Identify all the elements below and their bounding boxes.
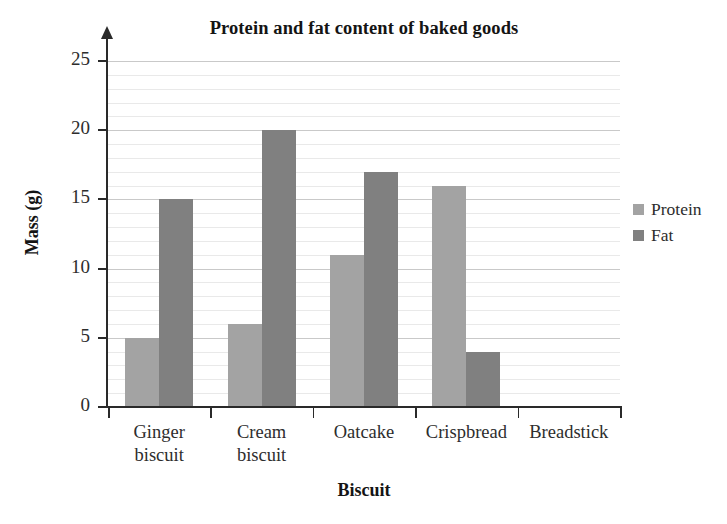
y-axis-tick-label: 0: [44, 394, 90, 416]
y-axis-tick: [98, 406, 108, 408]
bar-fat-1: [262, 130, 296, 407]
gridline-minor: [108, 75, 620, 76]
y-axis-tick-label: 25: [44, 48, 90, 70]
x-axis-category-label-line: biscuit: [192, 444, 332, 467]
y-axis-tick: [98, 129, 108, 131]
plot-area: [108, 61, 620, 407]
bar-chart: Protein and fat content of baked goods 0…: [0, 0, 727, 524]
bar-fat-0: [159, 199, 193, 407]
bar-protein-0: [125, 338, 159, 407]
gridline-minor: [108, 103, 620, 104]
legend-item-fat[interactable]: Fat: [633, 222, 702, 248]
bar-fat-3: [466, 352, 500, 407]
gridline-minor: [108, 144, 620, 145]
y-axis-tick: [98, 198, 108, 200]
y-axis-title: Mass (g): [22, 163, 43, 283]
x-axis-category-label: Breadstick: [499, 421, 639, 444]
y-axis-tick-label: 10: [44, 256, 90, 278]
y-axis-tick-label: 5: [44, 325, 90, 347]
y-axis-tick: [98, 268, 108, 270]
gridline-major: [108, 61, 620, 62]
bar-fat-2: [364, 172, 398, 407]
y-axis-tick-label: 20: [44, 117, 90, 139]
bar-protein-2: [330, 255, 364, 407]
legend-swatch-fat: [633, 230, 644, 241]
bar-protein-1: [228, 324, 262, 407]
x-axis-tick: [518, 407, 520, 418]
x-axis-tick: [210, 407, 212, 418]
y-axis-tick: [98, 60, 108, 62]
x-axis-tick: [415, 407, 417, 418]
x-axis-line: [101, 406, 622, 408]
legend: ProteinFat: [633, 196, 702, 248]
legend-item-protein[interactable]: Protein: [633, 196, 702, 222]
x-axis-category-label-line: Breadstick: [499, 421, 639, 444]
x-axis-title: Biscuit: [108, 480, 620, 501]
gridline-minor: [108, 89, 620, 90]
legend-label: Protein: [651, 199, 702, 220]
legend-swatch-protein: [633, 204, 644, 215]
gridline-minor: [108, 116, 620, 117]
legend-label: Fat: [651, 225, 673, 246]
gridline-minor: [108, 158, 620, 159]
y-axis-tick: [98, 337, 108, 339]
chart-title: Protein and fat content of baked goods: [108, 18, 620, 39]
bar-protein-3: [432, 186, 466, 407]
y-axis-line: [106, 34, 108, 408]
gridline-major: [108, 130, 620, 131]
x-axis-tick: [108, 407, 110, 418]
x-axis-tick: [620, 407, 622, 418]
x-axis-tick: [313, 407, 315, 418]
y-axis-tick-label: 15: [44, 186, 90, 208]
